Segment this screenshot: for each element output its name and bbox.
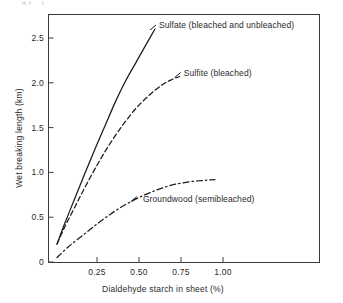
y-axis-tick-labels: 0 0.5 1.0 1.5 2.0 2.5 [32,33,44,267]
y-axis-title: Wet breaking length (km) [14,88,24,188]
y-tick-label-2.0: 2.0 [32,78,44,88]
series-label-sulfate: Sulfate (bleached and unbleached) [159,20,294,30]
y-tick-label-0.5: 0.5 [32,212,44,222]
x-tick-label-1.00: 1.00 [214,267,231,277]
x-axis-ticks [97,257,223,262]
y-axis-ticks [49,38,54,262]
y-tick-label-2.5: 2.5 [32,33,44,43]
curve-sulfite [57,77,180,245]
chart-figure: 0 0.5 1.0 1.5 2.0 2.5 0.25 0.50 0.75 1.0… [0,0,343,303]
x-tick-label-0.25: 0.25 [88,267,105,277]
plot-frame [49,15,320,263]
x-tick-label-0.75: 0.75 [172,267,189,277]
x-tick-label-0.50: 0.50 [130,267,147,277]
y-tick-label-1.5: 1.5 [32,123,44,133]
y-tick-label-1.0: 1.0 [32,167,44,177]
y-tick-label-0: 0 [39,257,44,267]
series-label-groundwood: Groundwood (semibleached) [143,194,255,204]
curve-groundwood [57,180,215,258]
x-axis-title: Dialdehyde starch in sheet (%) [102,284,224,294]
series-label-sulfite: Sulfite (bleached) [184,68,252,78]
x-axis-tick-labels: 0.25 0.50 0.75 1.00 [88,267,231,277]
